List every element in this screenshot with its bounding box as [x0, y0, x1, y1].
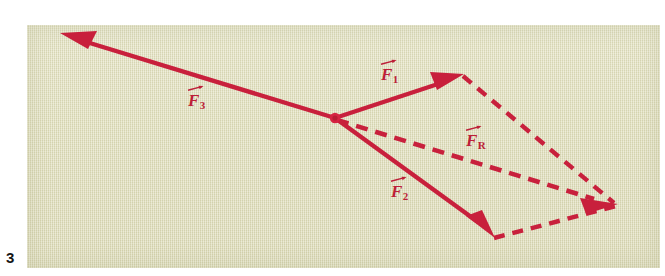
vector-label-f1: F 1	[381, 66, 398, 85]
vector-label-f2-subscript: 2	[403, 190, 409, 202]
vector-arrow-overline-icon	[390, 176, 407, 183]
vector-label-f3-letter: F	[188, 91, 199, 110]
vector-label-f3: F 3	[188, 92, 205, 111]
vector-label-fr: F R	[466, 132, 486, 151]
illustration-panel	[27, 25, 660, 268]
vector-label-f1-glyph: F	[381, 66, 392, 83]
vector-label-fr-subscript: R	[478, 139, 486, 151]
figure-number: 3	[6, 249, 14, 266]
vector-label-f3-subscript: 3	[200, 99, 206, 111]
vector-label-f2-glyph: F	[391, 183, 402, 200]
vector-label-f2: F 2	[391, 183, 408, 202]
vector-arrow-overline-icon	[465, 125, 482, 132]
vector-arrow-overline-icon	[380, 59, 397, 66]
vector-label-f1-subscript: 1	[393, 73, 399, 85]
vector-label-fr-letter: F	[466, 131, 477, 150]
vector-label-fr-glyph: F	[466, 132, 477, 149]
vector-label-f3-glyph: F	[188, 92, 199, 109]
vector-label-f1-letter: F	[381, 65, 392, 84]
vector-arrow-overline-icon	[187, 85, 204, 92]
figure-root: F 3 F 1 F 2 F R 3	[0, 0, 665, 276]
vector-label-f2-letter: F	[391, 182, 402, 201]
